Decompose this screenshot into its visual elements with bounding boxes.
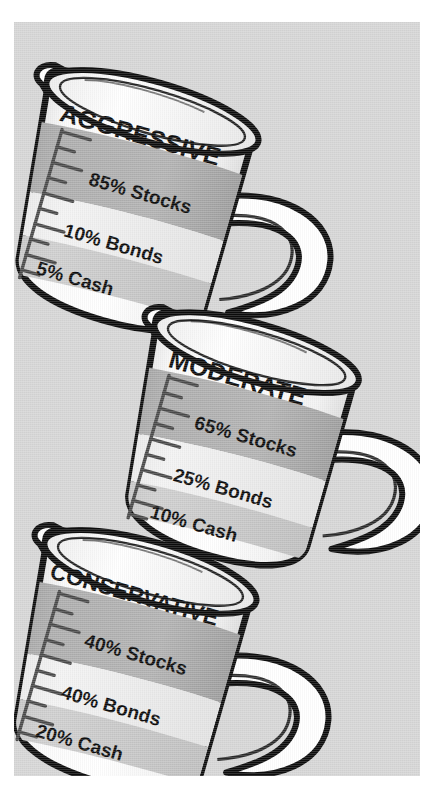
illustration-stage: AGGRESSIVE 85% Stocks 10% Bonds 5% Cash xyxy=(0,0,434,794)
measuring-cups-artwork: AGGRESSIVE 85% Stocks 10% Bonds 5% Cash xyxy=(14,22,420,776)
scan-artifact xyxy=(0,0,434,20)
illustration-panel: AGGRESSIVE 85% Stocks 10% Bonds 5% Cash xyxy=(14,22,420,776)
